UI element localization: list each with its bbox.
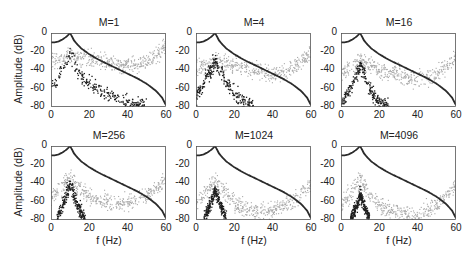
panel-title: M=4096 <box>341 129 457 141</box>
x-tick-label: 40 <box>412 222 423 233</box>
x-axis-label: f (Hz) <box>196 234 312 246</box>
panel-title: M=4 <box>196 16 312 28</box>
subplot-m-1 <box>51 33 166 107</box>
panel-title: M=256 <box>51 129 167 141</box>
gray-scatter-series <box>51 39 167 75</box>
y-tick-label: 0 <box>41 26 47 37</box>
x-tick-label: 40 <box>267 109 278 120</box>
x-tick-label: 60 <box>160 222 171 233</box>
subplot-m-256 <box>51 146 166 220</box>
subplot-m-16 <box>341 33 456 107</box>
reference-curve <box>341 33 456 105</box>
x-axis-label: f (Hz) <box>51 234 167 246</box>
x-tick-label: 0 <box>338 109 344 120</box>
y-tick-label: -20 <box>30 45 44 56</box>
y-tick-label: -40 <box>175 176 189 187</box>
reference-curve <box>51 146 166 218</box>
y-tick-label: -40 <box>30 63 44 74</box>
y-tick-label: -80 <box>30 100 44 111</box>
y-tick-label: 0 <box>41 139 47 150</box>
y-tick-label: -40 <box>175 63 189 74</box>
y-tick-label: -60 <box>320 195 334 206</box>
x-tick-label: 60 <box>305 222 316 233</box>
x-tick-label: 0 <box>193 222 199 233</box>
y-tick-label: -60 <box>320 82 334 93</box>
y-tick-label: -20 <box>30 158 44 169</box>
subplot-m-4096 <box>341 146 456 220</box>
y-tick-label: -20 <box>320 45 334 56</box>
y-axis-label: Amplitude (dB) <box>12 24 24 114</box>
y-tick-label: 0 <box>331 26 337 37</box>
axes-frame <box>197 147 311 220</box>
y-tick-label: -40 <box>30 176 44 187</box>
y-tick-label: -20 <box>320 158 334 169</box>
x-tick-label: 0 <box>193 109 199 120</box>
axes-frame <box>342 147 456 220</box>
axes-frame <box>52 147 166 220</box>
x-tick-label: 40 <box>267 222 278 233</box>
x-tick-label: 0 <box>338 222 344 233</box>
x-tick-label: 60 <box>160 109 171 120</box>
y-axis-label: Amplitude (dB) <box>12 137 24 227</box>
y-tick-label: 0 <box>186 26 192 37</box>
x-tick-label: 60 <box>305 109 316 120</box>
subplot-m-4 <box>196 33 311 107</box>
panel-title: M=16 <box>341 16 457 28</box>
black-scatter-series <box>57 181 86 221</box>
y-tick-label: -80 <box>320 213 334 224</box>
y-tick-label: -20 <box>175 158 189 169</box>
x-tick-label: 20 <box>374 109 385 120</box>
y-tick-label: -60 <box>30 82 44 93</box>
y-tick-label: -80 <box>175 213 189 224</box>
y-tick-label: -40 <box>320 63 334 74</box>
x-tick-label: 20 <box>374 222 385 233</box>
x-tick-label: 0 <box>48 222 54 233</box>
x-tick-label: 20 <box>229 222 240 233</box>
x-tick-label: 20 <box>84 222 95 233</box>
x-tick-label: 40 <box>122 109 133 120</box>
y-tick-label: -80 <box>320 100 334 111</box>
x-tick-label: 40 <box>412 109 423 120</box>
x-tick-label: 40 <box>122 222 133 233</box>
y-tick-label: -80 <box>30 213 44 224</box>
y-tick-label: -60 <box>175 195 189 206</box>
axes-frame <box>197 34 311 107</box>
y-tick-label: -80 <box>175 100 189 111</box>
panel-title: M=1 <box>51 16 167 28</box>
y-tick-label: 0 <box>186 139 192 150</box>
x-tick-label: 20 <box>84 109 95 120</box>
panel-title: M=1024 <box>196 129 312 141</box>
black-scatter-series <box>341 62 389 108</box>
x-tick-label: 60 <box>450 109 461 120</box>
y-tick-label: 0 <box>331 139 337 150</box>
y-tick-label: -20 <box>175 45 189 56</box>
black-scatter-series <box>350 186 370 220</box>
x-tick-label: 60 <box>450 222 461 233</box>
x-tick-label: 20 <box>229 109 240 120</box>
x-axis-label: f (Hz) <box>341 234 457 246</box>
x-tick-label: 0 <box>48 109 54 120</box>
y-tick-label: -40 <box>320 176 334 187</box>
y-tick-label: -60 <box>175 82 189 93</box>
y-tick-label: -60 <box>30 195 44 206</box>
subplot-m-1024 <box>196 146 311 220</box>
